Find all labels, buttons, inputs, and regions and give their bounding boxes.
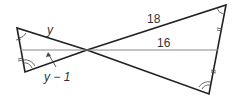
angle-arc-right-bottom-1 bbox=[202, 85, 210, 89]
tick-mark-right-2a bbox=[211, 70, 216, 71]
label-18: 18 bbox=[147, 12, 161, 26]
tick-mark-left-1 bbox=[16, 39, 21, 40]
label-y-minus-1: y − 1 bbox=[43, 70, 70, 84]
angle-arc-left-top bbox=[19, 33, 26, 38]
angle-arc-right-top bbox=[217, 8, 223, 14]
tick-mark-right-2b bbox=[211, 72, 216, 73]
label-y: y bbox=[46, 23, 54, 37]
similar-triangles-diagram: y y − 1 18 16 bbox=[0, 0, 236, 103]
label-16: 16 bbox=[157, 36, 171, 50]
